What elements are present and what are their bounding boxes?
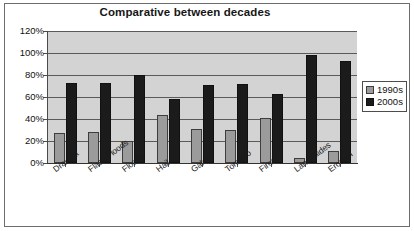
bar-group <box>254 31 288 163</box>
x-axis-category-labels: DraughtFlash FloodsFloodsHailGalesTornad… <box>48 166 357 222</box>
legend-item-2000s: 2000s <box>366 96 403 108</box>
y-axis-tick-label: 60% <box>2 92 44 102</box>
y-axis-tick-mark <box>43 119 47 120</box>
bar-group <box>48 31 82 163</box>
legend-swatch-icon-1990s <box>366 86 374 94</box>
legend-label-1990s: 1990s <box>377 85 403 95</box>
y-axis-tick-label: 0% <box>2 158 44 168</box>
y-axis-tick-mark <box>43 53 47 54</box>
y-axis-tick-mark <box>43 141 47 142</box>
y-axis-tick-label: 120% <box>2 26 44 36</box>
y-axis-tick-mark <box>43 75 47 76</box>
y-axis-tick-label: 100% <box>2 48 44 58</box>
bar-group <box>288 31 322 163</box>
bar-2000s <box>203 85 214 163</box>
legend-label-2000s: 2000s <box>377 97 403 107</box>
bar-groups <box>48 31 357 163</box>
y-axis: 120%100%80%60%40%20%0% <box>0 0 44 231</box>
y-axis-tick-label: 80% <box>2 70 44 80</box>
legend-swatch-icon-2000s <box>366 98 374 106</box>
bar-group <box>151 31 185 163</box>
bar-2000s <box>169 99 180 163</box>
y-axis-tick-mark <box>43 97 47 98</box>
chart-legend: 1990s 2000s <box>362 81 407 112</box>
bar-2000s <box>134 75 145 163</box>
chart-title: Comparative between decades <box>40 6 330 18</box>
legend-item-1990s: 1990s <box>366 84 403 96</box>
bar-1990s <box>157 115 168 163</box>
y-axis-tick-label: 40% <box>2 114 44 124</box>
bar-group <box>82 31 116 163</box>
chart-screenshot: Comparative between decades 120%100%80%6… <box>0 0 414 231</box>
bar-group <box>220 31 254 163</box>
y-axis-tick-label: 20% <box>2 136 44 146</box>
y-axis-tick-mark <box>43 31 47 32</box>
y-axis-tick-mark <box>43 163 47 164</box>
bar-group <box>185 31 219 163</box>
bar-2000s <box>272 94 283 163</box>
bar-2000s <box>340 61 351 163</box>
